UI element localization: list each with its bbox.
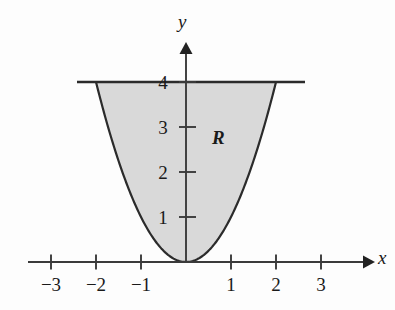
x-axis-label: x [378, 248, 386, 267]
y-tick-label-3: 3 [153, 118, 173, 137]
x-tick-label-neg3: −3 [36, 275, 66, 294]
y-tick-label-4: 4 [153, 73, 173, 92]
y-axis-label: y [178, 12, 186, 31]
y-tick-label-2: 2 [153, 163, 173, 182]
x-tick-label-neg1: −1 [126, 275, 156, 294]
x-tick-label-3: 3 [311, 275, 331, 294]
figure-content [0, 0, 395, 310]
y-tick-label-1: 1 [153, 208, 173, 227]
plot-canvas [0, 0, 395, 310]
region-label-R: R [212, 128, 225, 147]
math-figure-parabola-region: y x R −3 −2 −1 1 2 3 1 2 3 4 [0, 0, 395, 310]
x-tick-label-neg2: −2 [81, 275, 111, 294]
x-tick-label-1: 1 [221, 275, 241, 294]
x-tick-label-2: 2 [266, 275, 286, 294]
